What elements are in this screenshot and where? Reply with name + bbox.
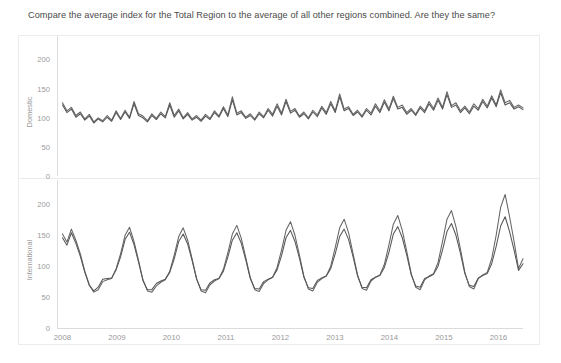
- x-tick-label: 2016: [490, 333, 507, 342]
- y-tick-label: 0: [46, 324, 50, 333]
- y-tick-label: 150: [37, 85, 50, 94]
- y-tick-label: 150: [37, 231, 50, 240]
- series-line-total-region: [62, 194, 523, 292]
- y-tick-label: 50: [42, 143, 50, 152]
- y-tick-label: 100: [37, 114, 50, 123]
- x-tick-label: 2014: [381, 333, 399, 342]
- x-tick-label: 2015: [435, 333, 453, 342]
- y-tick-label: 200: [37, 55, 50, 64]
- x-tick-label: 2008: [54, 333, 71, 342]
- x-tick-label: 2010: [163, 333, 181, 342]
- x-tick-label: 2013: [326, 333, 343, 342]
- x-tick-label: 2011: [218, 333, 235, 342]
- y-tick-label: 0: [46, 172, 50, 181]
- y-axis-title: Domestic: [25, 96, 34, 127]
- y-tick-label: 50: [42, 293, 50, 302]
- x-tick-label: 2009: [108, 333, 125, 342]
- series-line-other-regions: [62, 93, 523, 123]
- dual-line-chart: 050100150200Domestic050100150200Internat…: [0, 0, 561, 363]
- x-tick-label: 2012: [272, 333, 289, 342]
- y-tick-label: 200: [37, 200, 50, 209]
- y-tick-label: 100: [37, 262, 50, 271]
- visualization-canvas: Compare the average index for the Total …: [0, 0, 561, 363]
- y-axis-title: International: [25, 239, 34, 280]
